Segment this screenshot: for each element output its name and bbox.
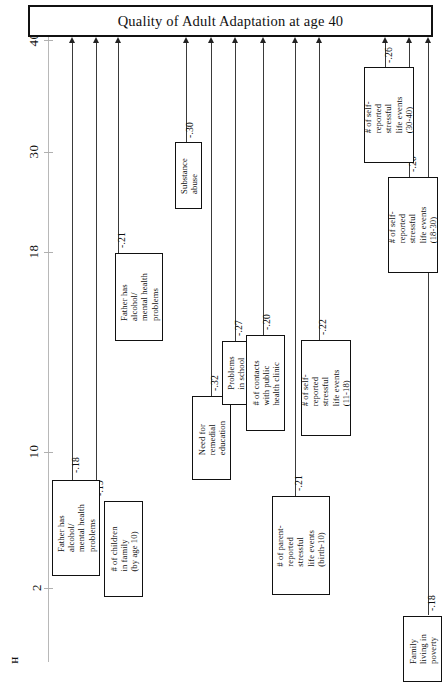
arrowhead-1	[69, 37, 75, 43]
node-label: # of children in family (by age 10)	[108, 526, 139, 571]
connector-12	[428, 43, 429, 615]
node-label: # of self- reported stressful life event…	[364, 97, 414, 134]
arrowhead-7	[260, 37, 266, 43]
node-label: Substance abuse	[178, 158, 198, 194]
connector-3	[118, 43, 119, 253]
coef-9: -.30	[184, 122, 195, 138]
axis-label-18: 18	[0, 245, 40, 258]
coef-7: -.22	[317, 319, 328, 335]
vertical-axis-line	[48, 30, 49, 662]
coef-4: -.27	[233, 320, 244, 336]
node-label: # of contacts with public health clinic	[250, 360, 281, 405]
node-label: Family living in poverty	[407, 634, 438, 664]
arrowhead-5	[208, 37, 214, 43]
axis-title: H	[2, 655, 28, 665]
coef-3: -.32	[209, 375, 220, 391]
arrowhead-8	[292, 37, 298, 43]
node-label: Need for remedial education	[196, 421, 227, 455]
coef-12: -.18	[426, 595, 437, 611]
node-self-reported-stressful-life-events-11-18[interactable]: # of self- reported stressful life event…	[301, 340, 351, 436]
arrowhead-10	[382, 37, 388, 43]
axis-tick-30	[44, 152, 53, 153]
node-label: # of self- reported stressful life event…	[388, 207, 438, 244]
connector-9	[319, 43, 320, 340]
axis-tick-2	[44, 588, 53, 589]
outcome-box-label: Quality of Adult Adaptation at age 40	[118, 13, 344, 30]
node-number-of-children-in-family[interactable]: # of children in family (by age 10)	[104, 501, 143, 597]
connector-7	[263, 43, 264, 335]
node-contacts-with-public-health-clinic[interactable]: # of contacts with public health clinic	[246, 335, 285, 431]
arrowhead-4	[183, 37, 189, 43]
node-label: Father has alcohol/ mental health proble…	[119, 273, 160, 321]
arrowhead-6	[232, 37, 238, 43]
axis-label-30-text: 30	[27, 145, 40, 159]
axis-label-2-text: 2	[30, 584, 43, 591]
node-label: # of parent- reported stressful life eve…	[275, 525, 326, 566]
coef-5: -.20	[261, 314, 272, 330]
node-father-alcohol-mental-health-age10[interactable]: Father has alcohol/ mental health proble…	[52, 480, 100, 576]
node-problems-in-school[interactable]: Problems in school	[222, 341, 249, 405]
axis-title-text: H	[10, 656, 20, 664]
node-substance-abuse[interactable]: Substance abuse	[175, 142, 202, 209]
coef-8: -.21	[116, 232, 127, 248]
axis-label-10: 10	[0, 445, 40, 458]
node-need-for-remedial-education[interactable]: Need for remedial education	[192, 396, 231, 480]
node-label: Problems in school	[225, 356, 245, 389]
connector-1	[72, 43, 73, 480]
node-self-reported-stressful-life-events-30-40[interactable]: # of self- reported stressful life event…	[364, 67, 414, 163]
axis-label-10-text: 10	[27, 445, 40, 459]
node-parent-reported-stressful-life-events-birth-10[interactable]: # of parent- reported stressful life eve…	[272, 496, 330, 595]
node-family-living-in-poverty[interactable]: Family living in poverty	[403, 616, 442, 682]
coef-6: -.21	[293, 475, 304, 491]
arrowhead-3	[115, 37, 121, 43]
coef-1: -.18	[70, 457, 81, 473]
node-label: Father has alcohol/ mental health proble…	[56, 504, 97, 552]
outcome-box: Quality of Adult Adaptation at age 40	[28, 5, 433, 37]
arrowhead-12	[425, 37, 431, 43]
arrowhead-2	[93, 37, 99, 43]
axis-tick-40	[44, 40, 53, 41]
coef-11: -.26	[383, 47, 394, 63]
axis-tick-18	[44, 252, 53, 253]
arrowhead-11	[406, 37, 412, 43]
axis-label-18-text: 18	[27, 245, 40, 259]
connector-2	[96, 43, 97, 501]
connector-5	[211, 43, 212, 396]
node-label: # of self- reported stressful life event…	[301, 370, 351, 407]
axis-tick-10	[44, 452, 53, 453]
connector-8	[295, 43, 296, 496]
node-father-alcohol-mental-health-age18[interactable]: Father has alcohol/ mental health proble…	[115, 253, 163, 341]
connector-6	[235, 43, 236, 341]
axis-label-30: 30	[0, 145, 40, 158]
axis-label-2: 2	[0, 581, 40, 594]
node-self-reported-stressful-life-events-18-30[interactable]: # of self- reported stressful life event…	[388, 177, 438, 273]
arrowhead-9	[316, 37, 322, 43]
